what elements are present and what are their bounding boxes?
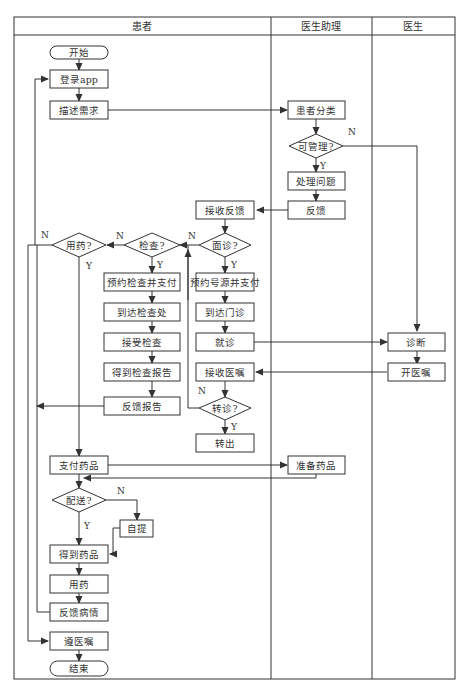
label-medicate-yes: Y [85,261,93,271]
svg-text:遵医嘱: 遵医嘱 [64,636,94,647]
node-prescribe: 开医嘱 [388,363,445,381]
node-pay-drugs: 支付药品 [50,456,108,474]
node-use-drugs: 用药 [50,575,108,593]
label-delivery-no: N [117,486,125,496]
svg-text:到达检查处: 到达检查处 [117,307,167,318]
lane-header-doctor: 医生 [403,20,423,32]
svg-text:接收反馈: 接收反馈 [205,205,245,216]
node-handle: 处理问题 [288,172,345,190]
node-follow-orders: 遵医嘱 [50,632,108,650]
svg-text:患者分类: 患者分类 [296,105,336,116]
node-arrive-clinic: 到达门诊 [196,303,254,321]
label-delivery-yes: Y [83,521,91,531]
svg-text:反馈: 反馈 [306,205,326,216]
connectors [28,58,417,661]
node-feedback-condition: 反馈病情 [50,603,108,621]
svg-text:准备药品: 准备药品 [296,460,336,471]
svg-text:用药?: 用药? [66,240,91,251]
svg-text:反馈报告: 反馈报告 [122,401,162,412]
node-end: 结束 [50,661,108,676]
node-book-exam: 预约检查并支付 [104,273,180,291]
decision-medicate: 用药? [52,233,106,257]
svg-text:预约号源并支付: 预约号源并支付 [190,277,260,288]
label-exam-yes: Y [156,260,164,270]
label-transfer-yes: Y [230,422,238,432]
svg-text:处理问题: 处理问题 [296,176,336,187]
svg-text:登录app: 登录app [60,74,98,85]
lane-header-assistant: 医生助理 [301,20,341,32]
svg-text:反馈病情: 反馈病情 [59,607,99,618]
node-login: 登录app [50,70,108,88]
svg-text:得到检查报告: 得到检查报告 [112,367,172,378]
decision-consult: 面诊? [199,233,251,257]
label-medicate-no: N [41,230,49,240]
decision-delivery: 配送? [52,488,106,512]
node-book-source: 预约号源并支付 [190,273,260,291]
node-classify: 患者分类 [288,101,345,119]
node-undergo-exam: 接受检查 [104,333,180,351]
svg-text:自提: 自提 [127,523,147,534]
node-prepare-drugs: 准备药品 [288,456,345,474]
node-get-report: 得到检查报告 [104,363,180,381]
label-manageable-yes: Y [319,161,327,171]
node-visit: 就诊 [196,333,254,351]
node-feedback: 反馈 [288,201,345,219]
decision-exam: 检查? [124,233,180,257]
svg-text:描述需求: 描述需求 [59,105,99,116]
label-consult-no: N [188,231,196,241]
decision-transfer: 转诊? [199,397,251,420]
node-diagnose: 诊断 [388,333,445,351]
svg-text:开医嘱: 开医嘱 [401,367,431,378]
svg-text:支付药品: 支付药品 [59,460,99,471]
svg-text:得到药品: 得到药品 [59,549,99,560]
svg-text:面诊?: 面诊? [212,240,237,251]
svg-text:接收医嘱: 接收医嘱 [205,367,245,378]
node-start: 开始 [50,46,108,59]
svg-text:转出: 转出 [215,438,235,449]
svg-text:可管理?: 可管理? [298,141,333,152]
node-receive-order: 接收医嘱 [196,363,254,381]
decision-manageable: 可管理? [289,134,343,158]
svg-text:配送?: 配送? [66,495,91,506]
label-manageable-no: N [348,127,356,137]
svg-text:诊断: 诊断 [406,337,426,348]
svg-text:结束: 结束 [69,663,89,674]
label-exam-no: N [116,231,124,241]
svg-text:就诊: 就诊 [215,337,235,348]
lane-header-patient: 患者 [132,21,152,32]
node-get-drugs: 得到药品 [50,545,108,563]
node-report-feedback: 反馈报告 [104,397,180,415]
node-transfer-out: 转出 [196,434,254,452]
svg-text:转诊?: 转诊? [212,403,237,414]
svg-text:预约检查并支付: 预约检查并支付 [107,277,177,288]
label-consult-yes: Y [230,260,238,270]
label-transfer-no: N [198,386,206,396]
svg-text:开始: 开始 [69,47,89,58]
node-describe: 描述需求 [50,101,108,119]
node-receive-feedback: 接收反馈 [196,201,254,219]
svg-text:到达门诊: 到达门诊 [205,307,245,318]
svg-text:接受检查: 接受检查 [122,337,162,348]
svg-text:检查?: 检查? [139,240,164,251]
node-self-pickup: 自提 [120,520,153,537]
node-arrive-exam: 到达检查处 [104,303,180,321]
svg-text:用药: 用药 [69,579,89,590]
